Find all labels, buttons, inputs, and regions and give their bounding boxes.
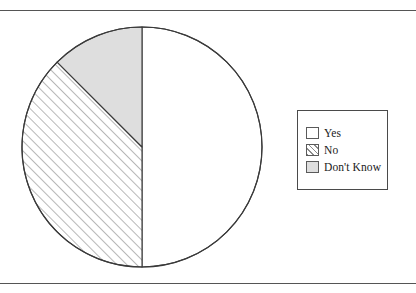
pie-slice-yes xyxy=(142,27,262,267)
legend-items: YesNoDon't Know xyxy=(306,126,381,174)
legend-label: No xyxy=(324,144,338,156)
legend-swatch-solid-grey xyxy=(306,161,319,173)
legend-item: Yes xyxy=(306,126,381,140)
legend-label: Don't Know xyxy=(324,161,381,173)
legend-swatch-hatched xyxy=(306,144,319,156)
legend-item: Don't Know xyxy=(306,160,381,174)
figure-canvas: YesNoDon't Know xyxy=(0,0,416,293)
legend-label: Yes xyxy=(324,127,341,139)
legend-item: No xyxy=(306,143,381,157)
legend-box: YesNoDon't Know xyxy=(297,110,388,190)
legend-swatch-solid-white xyxy=(306,127,319,139)
